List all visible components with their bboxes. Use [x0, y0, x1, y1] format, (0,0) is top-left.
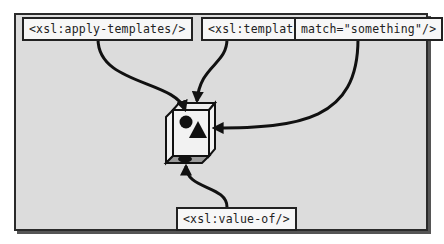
- cube-icon: [166, 103, 215, 163]
- label-match: match="something"/>: [294, 17, 443, 41]
- arrow-match: [214, 39, 358, 128]
- label-apply-templates: <xsl:apply-templates/>: [22, 17, 193, 41]
- circle-icon: [180, 116, 193, 129]
- arrow-value-of: [186, 166, 227, 207]
- label-template: <xsl:template: [201, 17, 308, 41]
- ellipse-icon: [178, 156, 192, 163]
- arrow-template: [197, 39, 227, 101]
- label-value-of: <xsl:value-of/>: [176, 207, 297, 231]
- arrow-apply-templates: [98, 39, 185, 110]
